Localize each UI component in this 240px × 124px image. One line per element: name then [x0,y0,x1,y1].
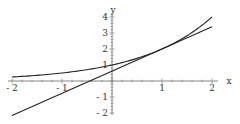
y-tick-label: - 1 [96,92,108,102]
x-axis-label: x [226,76,231,86]
y-tick-label: 4 [102,12,108,22]
x-tick-label: 1 [159,83,165,93]
y-tick-label: 2 [102,44,108,54]
chart: - 2- 112- 2- 11234xy [0,0,240,124]
y-tick-label: 1 [102,60,108,70]
x-tick-label: 2 [209,83,215,93]
x-tick-label: - 2 [6,83,18,93]
axes: - 2- 112- 2- 11234xy [6,5,231,118]
y-tick-label: - 2 [96,108,108,118]
y-tick-label: 3 [102,28,108,38]
y-axis-label: y [109,5,116,15]
